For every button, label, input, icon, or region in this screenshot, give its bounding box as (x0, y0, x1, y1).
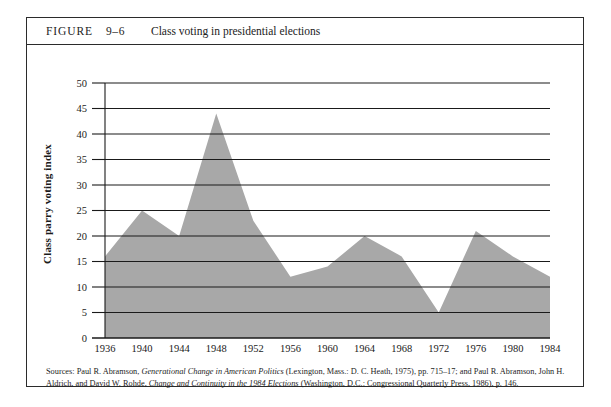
source-note-part1: Paul R. Abramson, (75, 367, 142, 376)
x-tick-label-1952: 1952 (243, 343, 264, 354)
x-tick-label-1944: 1944 (169, 343, 191, 354)
source-note-lead: Sources: (46, 367, 75, 376)
source-note-italic1: Generational Change in American Politics (141, 367, 283, 376)
x-tick-label-1964: 1964 (354, 343, 376, 354)
x-tick-label-1940: 1940 (132, 343, 153, 354)
y-tick-label-40: 40 (77, 129, 88, 140)
figure-frame: FIGURE 9–6 Class voting in presidential … (26, 17, 584, 387)
source-note-italic2: Change and Continuity in the 1984 Electi… (149, 379, 299, 388)
y-tick-label-15: 15 (77, 256, 88, 267)
y-tick-label-35: 35 (77, 154, 88, 165)
x-tick-label-1980: 1980 (502, 343, 523, 354)
x-tick-label-1956: 1956 (280, 343, 301, 354)
y-tick-label-5: 5 (82, 307, 87, 318)
x-tick-label-1976: 1976 (465, 343, 486, 354)
y-tick-label-45: 45 (77, 103, 88, 114)
plot-area: Class parry voting index 051015202530354… (27, 45, 583, 386)
y-tick-label-50: 50 (77, 78, 88, 89)
x-tick-label-1984: 1984 (540, 343, 562, 354)
figure-label: FIGURE (46, 25, 93, 37)
x-tick-label-1936: 1936 (95, 343, 116, 354)
y-tick-label-30: 30 (77, 180, 88, 191)
y-tick-label-20: 20 (77, 231, 88, 242)
x-tick-label-1960: 1960 (317, 343, 338, 354)
data-area-series (105, 114, 550, 338)
source-note-part3: (Washington, D.C.: Congressional Quarter… (299, 379, 519, 388)
source-note: Sources: Paul R. Abramson, Generational … (46, 366, 567, 390)
x-tick-label-1968: 1968 (391, 343, 412, 354)
figure-title: Class voting in presidential elections (151, 25, 320, 37)
x-tick-label-1948: 1948 (206, 343, 227, 354)
figure-caption-bar: FIGURE 9–6 Class voting in presidential … (27, 18, 583, 45)
class-voting-area-chart: 0510152025303540455019361940194419481952… (27, 45, 583, 365)
y-tick-label-10: 10 (77, 282, 88, 293)
x-tick-label-1972: 1972 (428, 343, 449, 354)
figure-number: 9–6 (106, 25, 125, 37)
y-tick-label-25: 25 (77, 205, 88, 216)
y-tick-label-0: 0 (82, 333, 87, 344)
